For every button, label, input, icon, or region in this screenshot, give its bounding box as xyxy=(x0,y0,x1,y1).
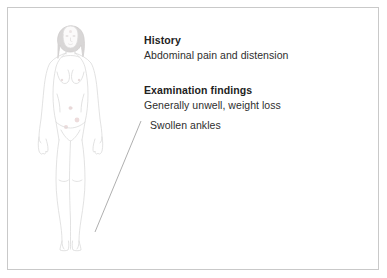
navel xyxy=(69,106,72,109)
right-nipple xyxy=(78,79,80,81)
left-leg-outer xyxy=(56,140,64,249)
hip-line xyxy=(56,122,85,128)
left-breast xyxy=(57,70,70,84)
leader-line-stroke xyxy=(95,121,141,232)
abdominal-mark-right xyxy=(75,118,80,123)
abdomen-right-contour xyxy=(81,94,84,112)
right-breast xyxy=(72,70,85,84)
screenshot-root: History Abdominal pain and distension Ex… xyxy=(0,0,387,278)
right-foot xyxy=(72,241,81,251)
examination-findings-line-1: Generally unwell, weight loss xyxy=(144,98,281,112)
annotation-examination-findings: Examination findings Generally unwell, w… xyxy=(144,83,281,132)
history-line-1: Abdominal pain and distension xyxy=(144,48,288,62)
examination-findings-heading: Examination findings xyxy=(144,83,281,97)
examination-findings-line-2: Swollen ankles xyxy=(144,118,281,132)
annotation-history: History Abdominal pain and distension xyxy=(144,33,288,62)
left-eye xyxy=(66,35,69,37)
clavicle xyxy=(62,56,79,58)
pelvic-triangle xyxy=(61,130,80,141)
left-knee xyxy=(59,180,69,182)
abdomen-left-contour xyxy=(57,94,60,112)
left-arm-outer xyxy=(39,53,66,143)
left-foot xyxy=(60,241,69,251)
right-knee xyxy=(73,180,83,182)
left-hand xyxy=(38,137,48,154)
history-heading: History xyxy=(144,33,288,47)
forehead-mark xyxy=(69,30,72,33)
right-eye xyxy=(73,35,76,37)
left-nipple xyxy=(61,79,63,81)
inner-leg-line xyxy=(70,141,71,249)
right-leg-outer xyxy=(77,140,85,249)
